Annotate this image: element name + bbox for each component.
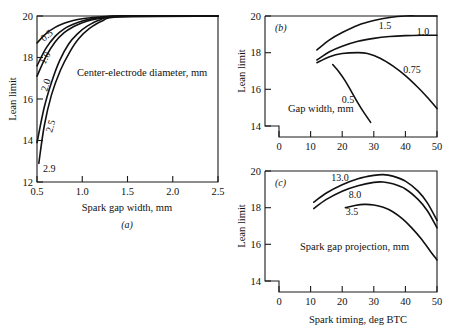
panel-b-xtick-2: 20 <box>337 141 348 152</box>
panel-c-curve-label-0: 13.0 <box>331 172 349 183</box>
figure-svg: 12 14 16 18 20 0.5 1.0 1.5 2.0 2.5 <box>0 0 456 333</box>
panel-b-xtick-0: 0 <box>276 141 281 152</box>
panel-c-xtick-3: 30 <box>369 296 380 307</box>
panel-b-curve-label-1: 1.0 <box>417 26 430 37</box>
panel-b-ytick-2: 18 <box>251 47 262 58</box>
curve-a-2.9 <box>39 16 218 163</box>
panel-b-curve-label-0: 1.5 <box>379 20 392 31</box>
panel-a-xaxis-title: Spark gap width, mm <box>82 202 172 213</box>
panel-c-xtick-1: 10 <box>305 296 316 307</box>
panel-c-annotation: Spark gap projection, mm <box>300 241 409 252</box>
panel-b-annotation: Gap width, mm <box>288 103 354 114</box>
panel-b-x-ticklabels: 0 10 20 30 40 50 <box>276 141 442 152</box>
panel-a-ytick-4: 20 <box>23 11 34 22</box>
panel-a-xtick-0: 0.5 <box>30 186 43 197</box>
panel-a-ytick-2: 16 <box>23 94 34 105</box>
panel-b-x-ticks <box>279 131 437 137</box>
panel-a-curve-label-1: 1.0 <box>37 50 53 66</box>
panel-c-xtick-2: 20 <box>337 296 348 307</box>
panel-a-xtick-4: 2.5 <box>211 186 224 197</box>
panel-c-curve-label-1: 8.0 <box>349 189 362 200</box>
panel-c-ytick-1: 16 <box>251 239 262 250</box>
panel-b-xtick-3: 30 <box>369 141 380 152</box>
panel-c-yaxis-title: Lean limit <box>236 204 247 248</box>
panel-b-y-ticklabels: 20 18 16 14 <box>251 11 262 132</box>
panel-c-x-ticks <box>279 286 437 292</box>
panel-b-xtick-1: 10 <box>305 141 316 152</box>
panel-a-x-ticklabels: 0.5 1.0 1.5 2.0 2.5 <box>30 186 224 197</box>
panel-c-caption: (c) <box>275 177 287 189</box>
panel-b-xtick-5: 50 <box>432 141 443 152</box>
panel-c-xtick-4: 40 <box>400 296 411 307</box>
panel-b-frame <box>265 16 437 137</box>
panel-b-ytick-1: 16 <box>251 84 262 95</box>
panel-c-y-ticklabels: 20 18 16 14 <box>251 166 262 287</box>
panel-c-xtick-0: 0 <box>276 296 281 307</box>
panel-a-y-ticklabels: 12 14 16 18 20 <box>23 11 34 188</box>
panel-c-xtick-5: 50 <box>432 296 443 307</box>
panel-a-xtick-1: 1.0 <box>76 186 89 197</box>
curve-b-0.75 <box>317 53 437 109</box>
panel-a-annotation: Center-electrode diameter, mm <box>77 67 207 78</box>
curve-a-2.5 <box>37 16 218 143</box>
panel-b-ytick-3: 20 <box>251 11 262 22</box>
panel-b-caption: (b) <box>275 22 287 34</box>
panel-a-curves <box>37 16 218 163</box>
panel-a-x-ticks <box>37 176 218 182</box>
panel-a-frame <box>37 16 218 182</box>
panel-a-curve-label-4: 2.9 <box>43 163 56 174</box>
panel-b-ytick-0: 14 <box>251 121 262 132</box>
panel-c-ytick-3: 20 <box>251 166 262 177</box>
panel-a-curve-label-2: 2.0 <box>38 77 52 92</box>
panel-c-ytick-0: 14 <box>251 276 262 287</box>
panel-c-xaxis-title: Spark timing, deg BTC <box>309 314 407 325</box>
panel-a: 12 14 16 18 20 0.5 1.0 1.5 2.0 2.5 <box>7 11 225 232</box>
figure-container: 12 14 16 18 20 0.5 1.0 1.5 2.0 2.5 <box>0 0 456 333</box>
panel-b: 20 18 16 14 0 10 20 30 40 50 <box>236 11 442 153</box>
panel-b-curve-label-2: 0.75 <box>403 64 421 75</box>
panel-a-caption: (a) <box>121 219 133 231</box>
panel-a-xtick-3: 2.0 <box>166 186 179 197</box>
panel-a-xtick-2: 1.5 <box>121 186 134 197</box>
panel-a-ytick-3: 18 <box>23 52 34 63</box>
panel-a-yaxis-title: Lean limit <box>7 77 18 121</box>
panel-c-curve-label-2: 3.5 <box>346 206 359 217</box>
panel-c-ytick-2: 18 <box>251 202 262 213</box>
panel-c: 20 18 16 14 0 10 20 30 40 50 <box>236 166 442 326</box>
panel-b-xtick-4: 40 <box>400 141 411 152</box>
panel-a-ytick-1: 14 <box>23 135 34 146</box>
panel-a-curve-label-3: 2.5 <box>43 119 57 134</box>
panel-c-y-ticks <box>265 171 271 281</box>
panel-b-yaxis-title: Lean limit <box>236 49 247 93</box>
panel-b-y-ticks <box>265 16 271 126</box>
panel-c-x-ticklabels: 0 10 20 30 40 50 <box>276 296 442 307</box>
